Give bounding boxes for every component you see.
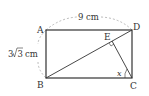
label-b: B — [37, 80, 44, 90]
side-dimension-arc-low — [38, 62, 46, 78]
label-d: D — [133, 22, 140, 32]
label-a: A — [36, 25, 44, 35]
angle-x-arc — [125, 69, 127, 78]
side-length-unit: cm — [25, 49, 38, 59]
side-length-coef: 3 — [8, 49, 13, 59]
top-dimension-arc — [46, 17, 77, 30]
label-e: E — [104, 32, 111, 42]
label-c: C — [130, 81, 137, 91]
top-length-label: 9 cm — [78, 12, 99, 22]
angle-x-label: x — [117, 69, 122, 78]
side-length-rad: 3 — [18, 49, 23, 59]
geometry-diagram: A D B C E 9 cm 3 3 cm x — [0, 0, 149, 96]
top-dimension-arc-right — [101, 17, 132, 30]
segment-ce — [112, 41, 132, 78]
